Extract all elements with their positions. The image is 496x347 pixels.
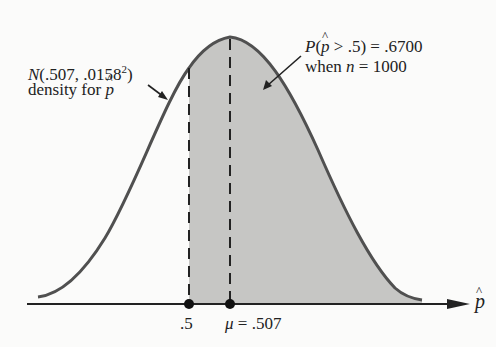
p-hat-symbol: p <box>321 37 330 56</box>
probability-label-line1: P(p > .5) = .6700 <box>305 37 422 56</box>
axis-arrow-icon <box>447 299 470 309</box>
figure: N(.507, .01582) density for p P(p > .5) … <box>0 0 496 347</box>
tick-label-half: .5 <box>180 314 193 333</box>
density-close: ) <box>127 65 133 84</box>
mu-value: = .507 <box>234 314 282 333</box>
n-value: = 1000 <box>355 57 407 76</box>
when-text: when <box>305 57 346 76</box>
shaded-area <box>189 37 422 304</box>
prob-value: > .5) = .6700 <box>330 37 423 56</box>
axis-label-phat: p <box>475 292 485 311</box>
arrowhead-density-icon <box>158 91 168 100</box>
n-symbol: n <box>346 57 355 76</box>
point-half <box>184 299 194 309</box>
probability-label-line2: when n = 1000 <box>305 57 407 76</box>
point-mean <box>225 299 235 309</box>
p-hat-symbol: p <box>105 80 114 99</box>
tick-label-mean: μ = .507 <box>225 314 281 333</box>
p-hat-axis-symbol: p <box>475 292 485 311</box>
prob-P: P <box>305 37 315 56</box>
density-label-line2: density for p <box>28 80 114 99</box>
density-text: density for <box>28 80 105 99</box>
mu-symbol: μ <box>225 314 234 333</box>
